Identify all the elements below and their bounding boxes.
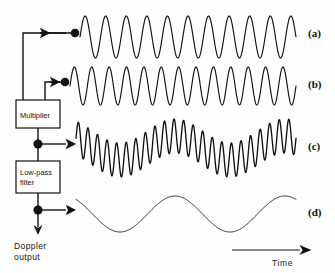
trace-label-c: (c)	[308, 140, 321, 153]
tap-dot-a	[71, 29, 80, 38]
waveform-trace-c	[76, 119, 296, 177]
lowpass-filter-block: Low-pass filter	[16, 161, 60, 193]
doppler-output-label-line1: Doppler	[14, 241, 47, 251]
lowpass-filter-label-line2: filter	[20, 178, 35, 187]
input-branch-a	[23, 29, 79, 100]
waveform-trace-a	[80, 16, 296, 58]
figure-canvas: Multiplier Low-pass filter Doppler outpu…	[0, 0, 335, 273]
multiplier-output-wire	[33, 128, 66, 161]
time-axis-label: Time	[272, 258, 293, 268]
waveform-trace-d	[76, 196, 296, 232]
wire-a-path	[23, 33, 72, 100]
lowpass-filter-box	[16, 161, 60, 193]
multiplier-label: Multiplier	[20, 111, 51, 120]
tap-dot-c	[33, 139, 42, 148]
doppler-block-diagram-figure: Multiplier Low-pass filter Doppler outpu…	[0, 0, 335, 273]
multiplier-block: Multiplier	[16, 100, 60, 128]
trace-label-d: (d)	[308, 206, 322, 219]
trace-label-b: (b)	[308, 78, 322, 91]
lowpass-filter-label-line1: Low-pass	[20, 168, 52, 177]
wire-b-path	[45, 82, 62, 100]
tap-dot-b	[61, 78, 70, 87]
time-axis: Time	[232, 250, 300, 268]
doppler-output-label-line2: output	[14, 252, 40, 262]
input-branch-b	[45, 78, 69, 100]
trace-label-a: (a)	[308, 27, 321, 40]
filter-output-wire: Doppler output	[14, 193, 66, 262]
waveform-trace-b	[70, 67, 296, 105]
